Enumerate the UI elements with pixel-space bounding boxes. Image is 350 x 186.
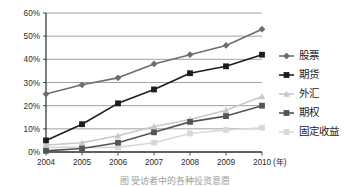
x-tick-label: 2010: [253, 158, 272, 167]
data-point: [115, 140, 121, 146]
data-point: [79, 121, 85, 127]
y-axis-tick-labels: 0%10%20%30%40%50%60%: [24, 9, 40, 157]
x-tick-label: 2007: [145, 158, 164, 167]
data-point: [43, 91, 50, 98]
y-tick-label: 0%: [28, 148, 40, 157]
chart-legend: 股票期货外汇期权固定收益: [279, 49, 340, 137]
x-axis-unit-label: (年): [273, 157, 287, 167]
legend-item-外汇[interactable]: 外汇: [279, 87, 319, 99]
x-axis-tick-labels: 2004200520062007200820092010(年): [37, 157, 287, 167]
data-point: [151, 140, 157, 146]
legend-item-固定收益[interactable]: 固定收益: [279, 125, 340, 137]
y-tick-label: 40%: [24, 55, 40, 64]
series-line: [46, 96, 262, 145]
y-tick-label: 30%: [24, 79, 40, 88]
data-point: [187, 119, 193, 125]
legend-item-label: 股票: [299, 49, 319, 61]
data-point: [223, 63, 229, 69]
legend-swatch-marker: [284, 72, 290, 78]
y-tick-label: 60%: [24, 9, 40, 18]
data-point: [223, 127, 229, 133]
x-tick-label: 2004: [37, 158, 56, 167]
legend-item-label: 期货: [299, 68, 319, 80]
data-point: [187, 70, 193, 76]
data-point: [115, 100, 121, 106]
legend-item-期权[interactable]: 期权: [279, 106, 320, 118]
chart-figure: 0%10%20%30%40%50%60% 2004200520062007200…: [0, 0, 350, 186]
data-point: [43, 138, 49, 144]
data-point: [43, 148, 49, 154]
data-point: [187, 51, 194, 58]
data-point: [79, 146, 85, 152]
x-tick-label: 2006: [109, 158, 128, 167]
y-tick-label: 50%: [24, 32, 40, 41]
data-point: [259, 26, 266, 33]
legend-item-label: 期权: [299, 106, 320, 118]
legend-item-label: 外汇: [299, 87, 319, 99]
x-tick-label: 2005: [73, 158, 92, 167]
data-point: [115, 74, 122, 81]
x-tick-label: 2009: [217, 158, 236, 167]
legend-item-label: 固定收益: [299, 125, 340, 137]
legend-swatch-marker: [284, 110, 290, 116]
x-tick-label: 2008: [181, 158, 200, 167]
data-point: [259, 103, 265, 109]
y-tick-label: 10%: [24, 125, 40, 134]
legend-item-股票[interactable]: 股票: [279, 49, 319, 61]
data-point: [223, 113, 229, 119]
figure-caption: 图 受访者中的各种投资意愿: [0, 174, 350, 186]
series-外汇: [43, 93, 266, 148]
legend-swatch-marker: [283, 53, 290, 60]
data-point: [151, 129, 157, 135]
legend-swatch-marker: [284, 129, 290, 135]
investment-trend-line-chart: 0%10%20%30%40%50%60% 2004200520062007200…: [0, 0, 350, 186]
legend-item-期货[interactable]: 期货: [279, 68, 319, 80]
data-point: [259, 52, 265, 58]
data-point: [259, 125, 265, 131]
data-point: [151, 87, 157, 93]
y-tick-label: 20%: [24, 102, 40, 111]
data-point: [151, 61, 158, 68]
data-point: [187, 131, 193, 137]
data-point: [223, 42, 230, 49]
data-point: [259, 93, 266, 99]
data-series: [43, 26, 266, 154]
